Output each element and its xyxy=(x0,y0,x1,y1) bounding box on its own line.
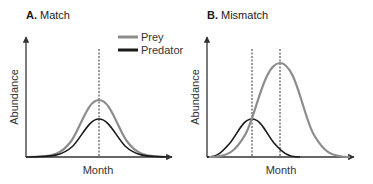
x-axis-label: Month xyxy=(266,164,297,176)
figure: A.Match Prey Predator Month Abundance B.… xyxy=(0,0,373,184)
legend-prey-label: Prey xyxy=(141,31,164,43)
panel-b: B.Mismatch Month Abundance xyxy=(189,9,354,176)
panel-b-title: B.Mismatch xyxy=(207,9,268,21)
panel-a-title: A.Match xyxy=(26,9,70,21)
predator-curve xyxy=(207,119,300,157)
x-axis-label: Month xyxy=(83,164,114,176)
y-axis-label: Abundance xyxy=(8,69,20,125)
legend: Prey Predator xyxy=(118,31,184,56)
legend-predator-label: Predator xyxy=(141,44,184,56)
y-axis-label: Abundance xyxy=(189,69,201,125)
panel-a: A.Match Prey Predator Month Abundance xyxy=(8,9,184,176)
